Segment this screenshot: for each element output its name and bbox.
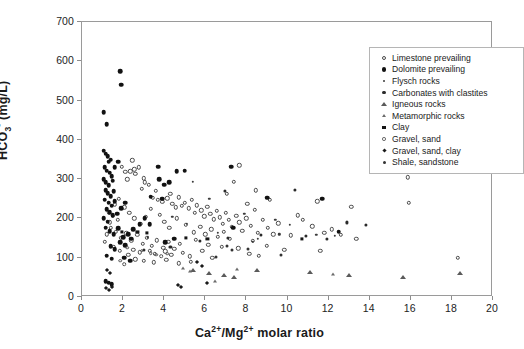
legend-marker-icon — [376, 149, 392, 152]
point-marker — [168, 192, 172, 196]
data-point — [176, 261, 180, 265]
point-marker — [288, 233, 292, 237]
x-tick-label: 18 — [445, 302, 457, 314]
data-point — [142, 216, 147, 221]
x-tick-label: 0 — [78, 302, 84, 314]
data-point — [244, 216, 248, 220]
data-point — [110, 256, 115, 261]
point-marker — [128, 259, 133, 264]
legend-marker-icon — [376, 161, 392, 164]
data-point — [189, 259, 193, 263]
legend-item-0[interactable]: Limestone prevailing — [376, 52, 517, 64]
y-tick-label: 0 — [40, 290, 74, 302]
point-marker — [172, 247, 176, 251]
x-tick-mark — [369, 296, 370, 300]
point-marker — [243, 213, 245, 215]
legend-item-8[interactable]: Gravel, sand, clay — [376, 145, 517, 157]
y-tick-label: 200 — [40, 211, 74, 223]
legend-item-9[interactable]: Shale, sandstone — [376, 156, 517, 168]
x-tick-mark — [410, 296, 411, 300]
legend-item-6[interactable]: Clay — [376, 122, 517, 134]
point-marker — [157, 177, 162, 182]
x-tick-mark — [245, 296, 246, 300]
data-point — [247, 248, 250, 251]
x-tick-mark — [81, 296, 82, 300]
data-point — [130, 158, 134, 162]
x-tick-label: 14 — [363, 302, 375, 314]
point-marker — [105, 219, 110, 224]
legend-item-4[interactable]: Igneous rocks — [376, 98, 517, 110]
point-marker — [130, 158, 134, 162]
data-point — [177, 241, 181, 245]
point-marker — [208, 198, 210, 200]
point-marker — [156, 164, 161, 169]
data-point — [167, 180, 172, 185]
data-point — [113, 247, 118, 252]
legend-item-3[interactable]: Carbonates with clastites — [376, 87, 517, 99]
data-point — [155, 238, 159, 242]
data-point — [147, 236, 149, 238]
data-point — [232, 180, 236, 184]
data-point — [136, 165, 140, 169]
data-point — [301, 217, 305, 221]
point-marker — [133, 257, 137, 261]
point-marker — [163, 240, 168, 245]
data-point — [231, 226, 236, 231]
point-marker — [237, 220, 241, 224]
data-point — [116, 160, 121, 165]
data-point — [173, 205, 177, 209]
point-marker — [113, 165, 118, 170]
data-point — [168, 192, 172, 196]
data-point — [364, 224, 367, 227]
y-tick-label: 400 — [40, 133, 74, 145]
legend-item-2[interactable]: Flysch rocks — [376, 75, 517, 87]
data-point — [271, 232, 275, 236]
point-marker — [167, 180, 172, 185]
point-marker — [274, 219, 276, 221]
data-point — [101, 110, 106, 115]
point-marker — [119, 206, 124, 211]
data-point — [329, 227, 333, 231]
data-point — [165, 252, 169, 256]
data-point — [349, 204, 353, 208]
point-marker — [329, 227, 333, 231]
data-point — [406, 175, 410, 179]
point-marker — [244, 216, 248, 220]
point-marker — [288, 224, 290, 226]
point-marker — [208, 212, 212, 216]
legend-item-5[interactable]: Metamorphic rocks — [376, 110, 517, 122]
data-point — [234, 214, 238, 218]
point-marker — [116, 160, 121, 165]
data-point — [206, 243, 210, 247]
y-title-superscript: - — [0, 124, 4, 127]
point-marker — [318, 248, 322, 252]
point-marker — [179, 285, 183, 289]
point-marker — [108, 271, 112, 275]
point-marker — [176, 261, 180, 265]
point-marker — [301, 217, 305, 221]
data-point — [145, 231, 148, 234]
data-point — [254, 268, 260, 272]
data-point — [236, 246, 240, 250]
open-tri-icon — [381, 102, 387, 106]
data-point — [137, 222, 142, 227]
x-title-mg-charge: 2+ — [244, 324, 254, 334]
point-marker — [322, 230, 326, 234]
data-point — [240, 229, 244, 233]
data-point — [140, 241, 144, 245]
legend-item-7[interactable]: Gravel, sand — [376, 133, 517, 145]
x-title-ca-charge: 2+ — [211, 324, 221, 334]
point-marker — [129, 237, 134, 242]
data-point — [169, 252, 173, 256]
data-point — [159, 254, 163, 258]
data-point — [172, 247, 176, 251]
open-circle-sm-icon — [382, 137, 386, 141]
data-point — [186, 223, 188, 225]
point-marker — [118, 240, 123, 245]
legend-item-1[interactable]: Dolomite prevailing — [376, 64, 517, 76]
data-point — [169, 245, 172, 248]
data-point — [149, 195, 154, 200]
data-point — [113, 199, 118, 204]
point-marker — [400, 275, 406, 279]
legend-label: Limestone prevailing — [392, 53, 471, 63]
